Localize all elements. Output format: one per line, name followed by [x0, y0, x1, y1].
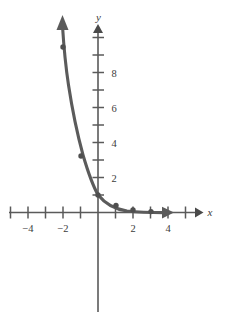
- coordinate-plane-svg: −4 −2 2 4 2 4 6 8 x y: [0, 0, 227, 326]
- y-axis-label: y: [95, 11, 101, 23]
- curve-group: [57, 15, 175, 218]
- data-point-markers: [60, 44, 153, 214]
- y-tick-label-6: 6: [111, 103, 116, 114]
- y-tick-labels: 2 4 6 8: [111, 68, 117, 184]
- data-point-marker: [95, 192, 100, 197]
- exponential-decay-curve: [63, 26, 165, 213]
- data-point-marker: [60, 44, 65, 49]
- y-axis-arrowhead: [93, 24, 103, 33]
- y-tick-label-8: 8: [111, 68, 116, 79]
- curve-upper-arrowhead: [57, 15, 69, 30]
- x-tick-label-pos4: 4: [165, 223, 171, 234]
- x-tick-label-pos2: 2: [130, 223, 135, 234]
- x-tick-labels: −4 −2 2 4: [22, 223, 171, 234]
- y-tick-label-2: 2: [111, 173, 116, 184]
- x-tick-label-neg4: −4: [22, 223, 34, 234]
- x-axis-arrowhead: [195, 208, 204, 218]
- data-point-marker: [78, 153, 83, 158]
- x-axis-label: x: [207, 206, 213, 218]
- data-point-marker: [130, 207, 135, 212]
- y-axis-group: [93, 24, 105, 312]
- y-tick-label-4: 4: [111, 138, 117, 149]
- data-point-marker: [113, 203, 118, 208]
- data-point-marker: [148, 209, 153, 214]
- graph-figure: −4 −2 2 4 2 4 6 8 x y: [0, 0, 227, 326]
- x-tick-label-neg2: −2: [57, 223, 68, 234]
- x-axis-group: [9, 207, 204, 219]
